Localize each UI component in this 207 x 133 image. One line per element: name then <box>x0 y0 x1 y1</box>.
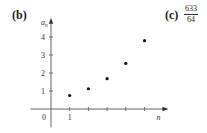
y-tick-label: 4 <box>41 33 45 42</box>
x-tick-label: 1 <box>68 113 72 122</box>
data-point <box>124 62 127 65</box>
y-tick-label: 2 <box>41 69 45 78</box>
y-axis-label: an <box>41 18 48 28</box>
y-tick-label: 3 <box>41 51 45 60</box>
points-group <box>68 39 146 97</box>
x-axis-arrow <box>162 107 168 111</box>
y-axis-label-subscript: n <box>45 22 48 28</box>
data-point <box>106 77 109 80</box>
origin-label: 0 <box>42 113 46 122</box>
y-tick-label: 1 <box>41 87 45 96</box>
x-axis-label: n <box>156 113 160 122</box>
data-point <box>87 87 90 90</box>
scatter-plot: nan0 11234 <box>0 0 207 133</box>
data-point <box>68 94 71 97</box>
y-axis-arrow <box>49 18 53 24</box>
axes-group: nan0 <box>30 18 168 127</box>
data-point <box>143 39 146 42</box>
